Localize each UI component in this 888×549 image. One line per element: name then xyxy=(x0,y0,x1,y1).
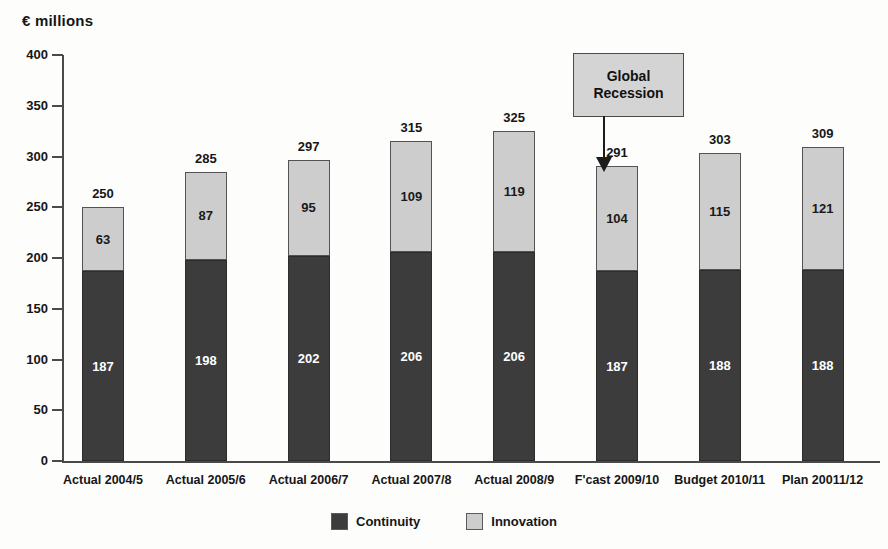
bar-segment-innovation[interactable]: 95 xyxy=(288,160,330,256)
bar-group[interactable]: 63187250 xyxy=(82,0,124,461)
callout-line-1: Global xyxy=(607,68,651,86)
legend-label: Innovation xyxy=(491,514,557,529)
callout-line-2: Recession xyxy=(593,85,663,103)
legend-item[interactable]: Continuity xyxy=(331,513,420,530)
x-axis-category-label: F'cast 2009/10 xyxy=(565,473,669,487)
x-axis-category-label: Actual 2004/5 xyxy=(51,473,155,487)
y-axis-tick xyxy=(52,156,63,158)
x-axis-category-label: Budget 2010/11 xyxy=(668,473,772,487)
legend-item[interactable]: Innovation xyxy=(466,513,557,530)
bar-total-label: 325 xyxy=(483,110,545,125)
x-axis-category-label: Actual 2007/8 xyxy=(359,473,463,487)
bar-segment-continuity[interactable]: 187 xyxy=(82,271,124,461)
bar-total-label: 250 xyxy=(72,186,134,201)
chart-legend: ContinuityInnovation xyxy=(0,513,888,530)
y-axis-tick-label: 300 xyxy=(2,149,48,164)
bar-group[interactable]: 121188309 xyxy=(802,0,844,461)
y-axis-tick-label: 200 xyxy=(2,250,48,265)
bar-segment-innovation[interactable]: 104 xyxy=(596,166,638,272)
bar-segment-innovation[interactable]: 121 xyxy=(802,147,844,270)
bar-group[interactable]: 95202297 xyxy=(288,0,330,461)
bar-segment-innovation[interactable]: 63 xyxy=(82,207,124,271)
y-axis-tick-label: 100 xyxy=(2,352,48,367)
bar-group[interactable]: 119206325 xyxy=(493,0,535,461)
bar-group[interactable]: 109206315 xyxy=(390,0,432,461)
y-axis-tick-label: 350 xyxy=(2,98,48,113)
bar-total-label: 285 xyxy=(175,151,237,166)
y-axis-tick-label: 0 xyxy=(2,453,48,468)
legend-swatch-icon xyxy=(331,513,348,530)
y-axis-tick-label: 250 xyxy=(2,199,48,214)
x-axis-category-label: Actual 2008/9 xyxy=(462,473,566,487)
legend-label: Continuity xyxy=(356,514,420,529)
legend-swatch-icon xyxy=(466,513,483,530)
y-axis-tick xyxy=(52,359,63,361)
y-axis-tick xyxy=(52,460,63,462)
bar-segment-continuity[interactable]: 206 xyxy=(390,252,432,461)
x-axis-category-label: Actual 2005/6 xyxy=(154,473,258,487)
bar-group[interactable]: 115188303 xyxy=(699,0,741,461)
y-axis-tick-label: 150 xyxy=(2,301,48,316)
y-axis-tick xyxy=(52,54,63,56)
x-axis-category-label: Actual 2006/7 xyxy=(257,473,361,487)
bar-total-label: 315 xyxy=(380,120,442,135)
bar-segment-continuity[interactable]: 198 xyxy=(185,260,227,461)
y-axis-tick xyxy=(52,206,63,208)
y-axis-tick-label: 400 xyxy=(2,47,48,62)
x-axis-category-label: Plan 20011/12 xyxy=(771,473,875,487)
y-axis-tick xyxy=(52,105,63,107)
callout-arrow-head-icon xyxy=(596,157,612,172)
bar-segment-continuity[interactable]: 202 xyxy=(288,256,330,461)
callout-arrow-stem xyxy=(603,116,605,160)
global-recession-callout: Global Recession xyxy=(573,53,684,117)
bar-segment-innovation[interactable]: 115 xyxy=(699,153,741,270)
bar-total-label: 309 xyxy=(792,126,854,141)
bar-segment-innovation[interactable]: 109 xyxy=(390,141,432,252)
y-axis-tick xyxy=(52,257,63,259)
bar-segment-continuity[interactable]: 206 xyxy=(493,252,535,461)
y-axis-tick xyxy=(52,308,63,310)
y-axis-tick xyxy=(52,409,63,411)
chart-canvas: € millions 050100150200250300350400 6318… xyxy=(0,0,888,549)
y-axis-tick-label: 50 xyxy=(2,402,48,417)
bar-segment-innovation[interactable]: 87 xyxy=(185,172,227,260)
x-axis-line xyxy=(62,461,880,463)
bar-total-label: 297 xyxy=(278,139,340,154)
bar-segment-continuity[interactable]: 188 xyxy=(699,270,741,461)
bar-group[interactable]: 87198285 xyxy=(185,0,227,461)
bar-segment-innovation[interactable]: 119 xyxy=(493,131,535,252)
y-axis-line xyxy=(62,55,64,463)
bar-total-label: 303 xyxy=(689,132,751,147)
bar-segment-continuity[interactable]: 187 xyxy=(596,271,638,461)
bar-segment-continuity[interactable]: 188 xyxy=(802,270,844,461)
